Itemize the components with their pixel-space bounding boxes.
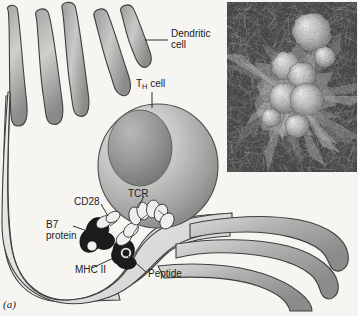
label-mhc-ii: MHC II (75, 264, 106, 275)
th-cell-nucleus (108, 110, 172, 186)
dendrite-finger-3 (62, 2, 89, 116)
label-cd28: CD28 (74, 196, 100, 207)
dendrite-finger-5 (120, 5, 151, 67)
label-b7-protein: B7protein (46, 219, 77, 241)
label-peptide: Peptide (148, 268, 182, 279)
leader-cd28 (101, 204, 108, 216)
label-dendritic-cell: Dendriticcell (171, 28, 210, 50)
b7-protein-pocket (87, 241, 97, 251)
dendrite-finger-1 (7, 5, 27, 126)
dendrite-finger-2 (35, 9, 62, 124)
peptide-molecule (123, 250, 130, 257)
micrograph-canvas (227, 2, 357, 172)
dendritic-cell-projections (7, 2, 151, 126)
label-tcr: TCR (128, 188, 149, 199)
label-th-cell: TH cell (136, 78, 165, 92)
panel-letter: (a) (3, 298, 16, 310)
sem-micrograph-inset (227, 2, 357, 172)
